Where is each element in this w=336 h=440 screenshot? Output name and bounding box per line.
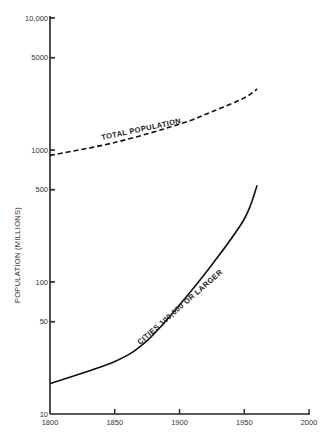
y-tick-label: 1000 [31, 146, 48, 155]
cities-label: CITIES 100,000 OR LARGER [135, 267, 224, 346]
cities-line [50, 185, 257, 383]
y-tick-label: 100 [35, 278, 48, 287]
x-tick-label: 1850 [106, 418, 123, 427]
population-chart: 10501005001000500010,000 180018501900195… [0, 0, 336, 440]
y-tick-label: 50 [40, 317, 48, 326]
x-tick-label: 1950 [236, 418, 253, 427]
x-tick-label: 1800 [42, 418, 59, 427]
y-tick-label: 500 [35, 185, 48, 194]
axes [50, 16, 310, 414]
x-ticks: 18001850190019502000 [42, 409, 318, 427]
y-tick-label: 10,000 [25, 14, 48, 23]
x-tick-label: 2000 [301, 418, 318, 427]
y-axis-label: POPULATION (MILLIONS) [13, 207, 22, 303]
x-tick-label: 1900 [171, 418, 188, 427]
total-population-label: TOTAL POPULATION [101, 116, 182, 142]
y-tick-label: 5000 [31, 53, 48, 62]
